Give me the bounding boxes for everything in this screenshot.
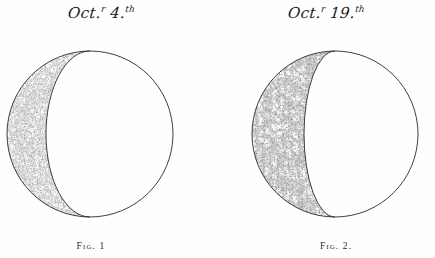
date-month-suffix-fig-1: r [101, 4, 106, 14]
crescent-shading-fig-2 [250, 38, 422, 238]
figure-label-1: Fig. 1 [5, 241, 177, 251]
date-caption-fig-1: Oct.r 4.th [67, 4, 135, 22]
crescent-shading-fig-1 [5, 38, 177, 238]
moon-figure-2 [250, 38, 422, 238]
date-day-suffix-fig-2: th [355, 4, 365, 14]
date-caption-fig-2: Oct.r 19.th [287, 4, 365, 22]
date-day-fig-2: 19 [329, 4, 351, 22]
moon-drawing-fig-1 [5, 38, 177, 238]
date-month-fig-1: Oct [67, 4, 97, 22]
date-month-fig-2: Oct [287, 4, 317, 22]
date-day-suffix-fig-1: th [125, 4, 135, 14]
moon-drawing-fig-2 [250, 38, 422, 238]
moon-figure-1 [5, 38, 177, 238]
date-month-suffix-fig-2: r [321, 4, 326, 14]
illustration-plate: Oct.r 4.th Oct.r 19.th [0, 0, 435, 258]
figure-label-2: Fig. 2. [250, 241, 422, 251]
